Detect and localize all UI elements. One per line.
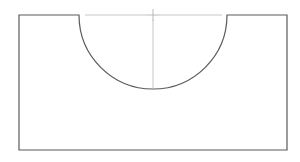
part-outline-drawing [0,0,300,162]
technical-drawing-canvas [0,0,300,162]
